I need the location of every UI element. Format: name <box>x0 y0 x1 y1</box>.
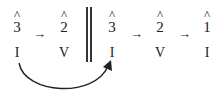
curved-arrow-icon <box>0 0 223 96</box>
